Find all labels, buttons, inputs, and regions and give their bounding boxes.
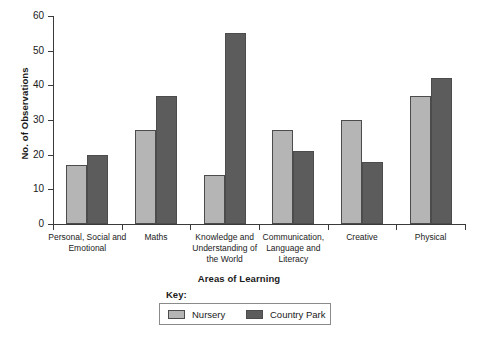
legend-entry: Country Park	[246, 308, 325, 321]
bar-group	[410, 16, 452, 224]
bar	[272, 130, 293, 224]
legend: NurseryCountry Park	[159, 303, 331, 325]
bar	[66, 165, 87, 224]
x-axis-tick	[396, 224, 397, 230]
x-axis-tick	[190, 224, 191, 230]
x-axis-tick	[328, 224, 329, 230]
bar	[362, 162, 383, 224]
bar	[341, 120, 362, 224]
legend-title: Key:	[166, 289, 187, 300]
y-axis-tick-label: 40	[16, 80, 44, 90]
bar-group	[204, 16, 246, 224]
y-axis-tick-label: 0	[16, 219, 44, 229]
bar	[204, 175, 225, 224]
bar-group	[135, 16, 177, 224]
legend-swatch-icon	[168, 310, 185, 319]
legend-swatch-icon	[246, 310, 263, 319]
bar-chart: No. of Observations 0102030405060 Person…	[0, 0, 478, 342]
y-axis-tick-label: 30	[16, 115, 44, 125]
category-label-line: Language and	[251, 243, 336, 254]
legend-label: Country Park	[270, 309, 325, 320]
bar-group	[66, 16, 108, 224]
category-label-line: Physical	[388, 232, 473, 243]
legend-entry: Nursery	[168, 308, 225, 321]
bar	[225, 33, 246, 224]
y-axis-tick-label: 10	[16, 184, 44, 194]
bar	[135, 130, 156, 224]
y-axis-tick-label: 20	[16, 150, 44, 160]
y-axis-tick-label: 50	[16, 46, 44, 56]
category-label-line: Literacy	[251, 254, 336, 265]
bar-group	[341, 16, 383, 224]
plot-area	[53, 16, 465, 224]
bar	[156, 96, 177, 224]
bar	[87, 155, 108, 224]
x-axis-tick	[122, 224, 123, 230]
x-axis-tick	[259, 224, 260, 230]
y-axis-tick-label: 60	[16, 11, 44, 21]
legend-label: Nursery	[192, 309, 225, 320]
bar	[431, 78, 452, 224]
category-label-line: Emotional	[45, 243, 130, 254]
y-axis-title: No. of Observations	[19, 34, 30, 194]
x-axis-tick	[465, 224, 466, 230]
x-axis-tick	[53, 224, 54, 230]
bar-group	[272, 16, 314, 224]
bar	[293, 151, 314, 224]
x-axis-category-label: Physical	[388, 232, 473, 243]
x-axis-title: Areas of Learning	[0, 273, 478, 284]
bar	[410, 96, 431, 224]
